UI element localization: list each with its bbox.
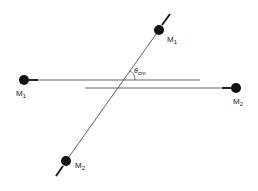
label-outgoing-m2: M2 [75,161,86,171]
label-theta-cm: θcm [134,67,146,76]
ball-incoming-m2 [231,83,241,93]
ball-outgoing-m1 [154,25,164,35]
ball-outgoing-m2 [61,156,71,166]
collision-diagram: M1 M1 M2 M2 θcm [0,0,258,191]
outgoing-trajectory [56,14,170,176]
label-incoming-m1: M1 [16,89,27,99]
label-outgoing-m1: M1 [167,35,178,45]
label-incoming-m2: M2 [233,97,244,107]
ball-incoming-m1 [19,75,29,85]
